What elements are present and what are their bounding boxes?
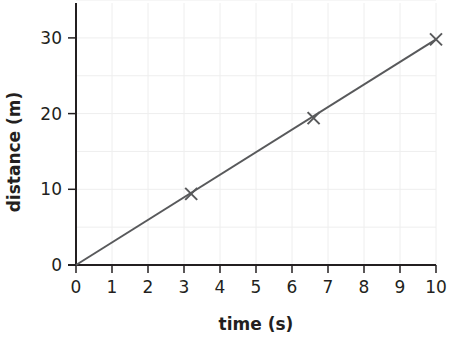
axes xyxy=(68,3,436,265)
x-axis-title: time (s) xyxy=(219,314,294,334)
x-tick-label: 4 xyxy=(215,277,226,297)
x-tick-label: 10 xyxy=(425,277,447,297)
grid-lines xyxy=(76,0,436,265)
y-tick-label: 20 xyxy=(40,104,62,124)
x-tick-label: 6 xyxy=(287,277,298,297)
x-tick-label: 2 xyxy=(143,277,154,297)
x-tick-label: 5 xyxy=(251,277,262,297)
x-axis-ticks: 012345678910 xyxy=(71,265,447,297)
y-tick-label: 10 xyxy=(40,179,62,199)
x-tick-label: 1 xyxy=(107,277,118,297)
x-tick-label: 3 xyxy=(179,277,190,297)
x-tick-label: 9 xyxy=(395,277,406,297)
x-tick-label: 0 xyxy=(71,277,82,297)
data-series xyxy=(76,33,442,265)
y-axis-ticks: 0102030 xyxy=(40,28,76,275)
y-tick-label: 0 xyxy=(51,255,62,275)
y-axis-title: distance (m) xyxy=(4,92,24,213)
x-tick-label: 7 xyxy=(323,277,334,297)
y-tick-label: 30 xyxy=(40,28,62,48)
x-tick-label: 8 xyxy=(359,277,370,297)
distance-time-graph: 012345678910 0102030 time (s) distance (… xyxy=(0,0,452,340)
